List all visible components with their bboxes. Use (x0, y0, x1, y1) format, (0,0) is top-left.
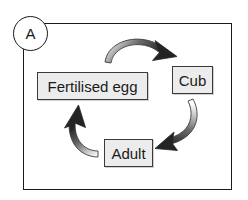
node-adult-label: Adult (111, 145, 145, 162)
node-cub: Cub (172, 66, 213, 94)
node-fertilised-egg: Fertilised egg (37, 72, 148, 100)
arrow-adult-to-egg (65, 105, 99, 157)
arrow-egg-to-cub (105, 39, 177, 63)
node-adult: Adult (104, 139, 153, 167)
diagram-canvas: A (0, 0, 248, 200)
node-cub-label: Cub (179, 72, 207, 89)
arrow-cub-to-adult (155, 99, 197, 151)
panel-label-badge: A (13, 16, 48, 51)
node-fertilised-egg-label: Fertilised egg (47, 78, 137, 95)
panel-label-text: A (25, 25, 35, 42)
